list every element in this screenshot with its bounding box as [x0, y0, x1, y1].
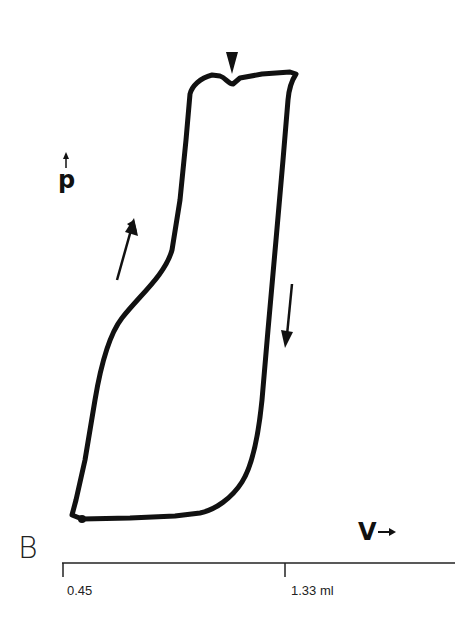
y-axis-title: p [58, 166, 75, 194]
arrowhead-marker-icon [226, 52, 238, 74]
pv-loop-chart [0, 0, 473, 622]
x-axis-title: V [358, 518, 377, 546]
arrow-down-icon [281, 284, 293, 348]
panel-label: B [18, 530, 38, 565]
loop-start-dot [78, 515, 86, 523]
x-tick-label-min: 0.45 [67, 583, 92, 598]
v-axis-arrow-icon [378, 528, 396, 536]
arrow-up-icon [117, 218, 138, 280]
pv-loop-curve [72, 72, 296, 519]
x-tick-label-max: 1.33 ml [291, 583, 334, 598]
